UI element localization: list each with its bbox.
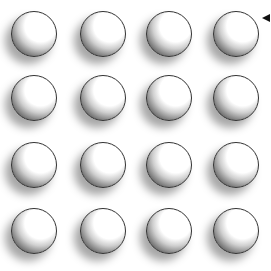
sphere-r1-c3 xyxy=(146,11,192,57)
sphere-r2-c3 xyxy=(146,75,192,121)
sphere-r4-c4 xyxy=(213,208,259,254)
sphere-r1-c2 xyxy=(80,11,126,57)
sphere-r3-c4 xyxy=(213,142,259,188)
sphere-r4-c3 xyxy=(146,208,192,254)
sphere-r2-c1 xyxy=(11,75,57,121)
sphere-r1-c1 xyxy=(11,11,57,57)
left-arrow-icon xyxy=(262,14,270,22)
sphere-r3-c2 xyxy=(80,142,126,188)
sphere-r1-c4 xyxy=(213,11,259,57)
sphere-r3-c3 xyxy=(146,142,192,188)
sphere-r3-c1 xyxy=(11,142,57,188)
sphere-r4-c1 xyxy=(11,208,57,254)
sphere-r4-c2 xyxy=(80,208,126,254)
sphere-r2-c4 xyxy=(213,75,259,121)
sphere-r2-c2 xyxy=(80,75,126,121)
